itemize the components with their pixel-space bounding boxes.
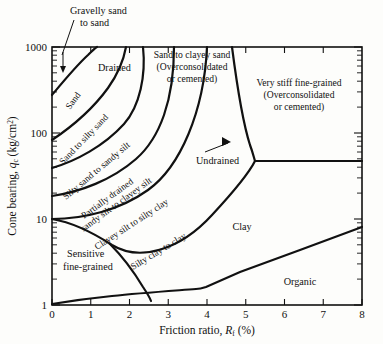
drained-label: Drained	[98, 62, 131, 73]
y-axis-title: Cone bearing, qc (kg/cm2)	[6, 116, 21, 236]
x-tick-4: 4	[204, 308, 210, 320]
region-very-stiff-fine-grained: Very stiff fine-grained (Overconsolidate…	[256, 77, 341, 113]
sensitive-fine-grained-line1: Sensitive	[67, 248, 105, 259]
sensitive-fine-grained-line2: fine-grained	[63, 261, 113, 272]
x-tick-3: 3	[166, 308, 172, 320]
y-tick-10: 10	[36, 213, 48, 225]
organic-label: Organic	[284, 276, 317, 287]
boundary-outer-oc-arc	[232, 47, 255, 161]
sand-to-clayey-sand-line3: or cemented)	[167, 73, 217, 85]
y-axis-title-close: )	[6, 116, 19, 120]
region-organic: Organic	[284, 276, 317, 287]
region-sensitive-fine-grained: Sensitive fine-grained	[63, 248, 113, 272]
x-tick-8: 8	[359, 308, 365, 320]
x-tick-labels: 0 1 2 3 4 5 6 7 8	[49, 308, 365, 320]
sand-to-clayey-sand-line1: Sand to clayey sand	[154, 49, 231, 60]
gravelly-sand-label-line2: to sand	[80, 17, 109, 28]
x-axis-title-unit: (%)	[235, 324, 255, 337]
x-tick-7: 7	[321, 308, 327, 320]
region-sand-to-clayey-sand: Sand to clayey sand (Overconsolidated or…	[154, 49, 231, 85]
chart-svg: 1 10 100 1000 0 1 2 3 4 5 6 7 8 Friction…	[0, 0, 383, 344]
x-tick-6: 6	[282, 308, 288, 320]
sand-to-clayey-sand-line2: (Overconsolidated	[157, 61, 228, 73]
svg-text:Cone bearing, qc (kg/cm2): Cone bearing, qc (kg/cm2)	[6, 116, 21, 236]
very-stiff-fine-grained-line1: Very stiff fine-grained	[256, 77, 341, 88]
boundary-sand	[52, 47, 97, 95]
cpt-soil-classification-chart: 1 10 100 1000 0 1 2 3 4 5 6 7 8 Friction…	[0, 0, 383, 344]
x-tick-0: 0	[49, 308, 55, 320]
undrained-group-label: Undrained	[196, 137, 239, 166]
gravelly-sand-leader-line	[62, 20, 74, 55]
sand-label: Sand	[64, 90, 83, 111]
clay-label: Clay	[232, 221, 252, 232]
svg-text:Friction ratio, Rf (%): Friction ratio, Rf (%)	[159, 324, 255, 338]
y-tick-1000: 1000	[25, 41, 48, 53]
x-tick-2: 2	[127, 308, 133, 320]
y-axis-title-unit: (kg/cm	[6, 124, 19, 160]
gravelly-sand-arrow-head	[60, 66, 66, 73]
gravelly-sand-label-line1: Gravelly sand	[70, 5, 127, 16]
x-axis-title-main: Friction ratio,	[159, 324, 225, 337]
very-stiff-fine-grained-line3: or cemented)	[274, 101, 324, 113]
y-tick-1: 1	[42, 299, 48, 311]
x-tick-1: 1	[88, 308, 94, 320]
band-label-silty-clay-to-clay: Silty clay to clay	[129, 231, 188, 272]
region-clay: Clay	[232, 221, 252, 232]
undrained-arrow-head	[222, 137, 231, 146]
band-label-sand: Sand	[64, 90, 83, 111]
undrained-label: Undrained	[196, 155, 239, 166]
x-axis-title: Friction ratio, Rf (%)	[159, 324, 255, 338]
y-tick-100: 100	[31, 127, 48, 139]
y-axis-title-main: Cone bearing,	[6, 168, 19, 235]
very-stiff-fine-grained-line2: (Overconsolidated	[264, 89, 335, 101]
x-axis-title-symbol: R	[224, 324, 232, 336]
drained-group-label: Drained	[98, 62, 131, 73]
y-tick-labels: 1 10 100 1000	[25, 41, 48, 311]
silty-clay-to-clay-label: Silty clay to clay	[129, 231, 188, 272]
x-tick-5: 5	[243, 308, 249, 320]
